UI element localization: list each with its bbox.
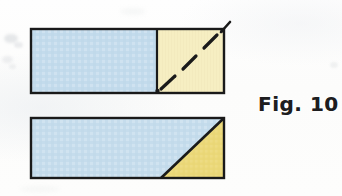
top-blue-texture: [31, 29, 157, 93]
figure-caption: Fig. 10: [258, 92, 339, 116]
figure-page: Fig. 10: [0, 0, 342, 196]
vertex-dot: [155, 89, 159, 93]
vertex-dot: [220, 29, 224, 33]
top-rectangle: [31, 22, 230, 93]
bottom-rectangle: [31, 118, 224, 178]
